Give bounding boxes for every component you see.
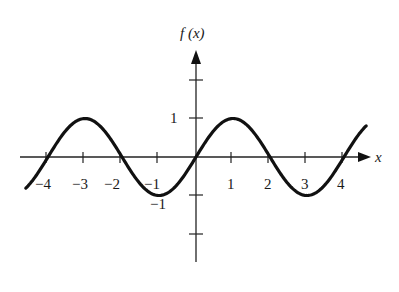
x-tick-label: −1: [144, 176, 160, 192]
y-axis-label: f (x): [180, 25, 205, 42]
x-tick-label: 2: [264, 176, 272, 192]
x-axis-arrow-icon: [358, 152, 371, 162]
x-tick-label: −2: [104, 176, 120, 192]
y-axis-arrow-icon: [191, 50, 201, 64]
y-tick-label: −1: [150, 196, 166, 212]
x-tick-label: −4: [35, 176, 51, 192]
x-tick-label: −3: [72, 176, 88, 192]
x-tick-label: 1: [227, 176, 235, 192]
x-axis-label: x: [374, 149, 382, 165]
x-tick-label: 4: [337, 176, 345, 192]
x-tick-label: 3: [301, 176, 309, 192]
sine-chart: −4 −3 −2 −1 1 2 3 4 1 −1 x f (x): [0, 0, 399, 292]
y-tick-label: 1: [170, 110, 178, 126]
